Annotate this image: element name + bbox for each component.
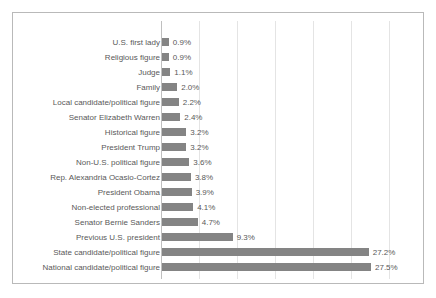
- bar-fill: [162, 143, 186, 151]
- value-label: 0.9%: [173, 35, 191, 50]
- value-label: 3.2%: [190, 140, 208, 155]
- value-label: 4.1%: [197, 200, 215, 215]
- bar: [162, 98, 179, 106]
- value-label: 27.5%: [375, 260, 398, 275]
- bar: [162, 38, 169, 46]
- bar: [162, 218, 198, 226]
- bar: [162, 53, 169, 61]
- bar-fill: [162, 53, 169, 61]
- bar: [162, 158, 189, 166]
- value-label: 2.2%: [183, 95, 201, 110]
- category-label: U.S. first lady: [112, 35, 160, 50]
- value-label: 1.1%: [174, 65, 192, 80]
- bar: [162, 143, 186, 151]
- bar-row: National candidate/political figure27.5%: [13, 260, 425, 275]
- category-label: Family: [136, 80, 160, 95]
- value-label: 9.3%: [237, 230, 255, 245]
- bar: [162, 263, 371, 271]
- bar-row: Rep. Alexandria Ocasio-Cortez3.8%: [13, 170, 425, 185]
- bar-fill: [162, 188, 192, 196]
- bar-fill: [162, 203, 193, 211]
- value-label: 3.9%: [196, 185, 214, 200]
- value-label: 27.2%: [373, 245, 396, 260]
- category-label: Judge: [138, 65, 160, 80]
- bar-fill: [162, 98, 179, 106]
- bar-fill: [162, 248, 369, 256]
- bar-row: Historical figure3.2%: [13, 125, 425, 140]
- bar-row: Judge1.1%: [13, 65, 425, 80]
- bar: [162, 173, 191, 181]
- bar-fill: [162, 128, 186, 136]
- category-label: National candidate/political figure: [43, 260, 160, 275]
- bar-row: Non-U.S. political figure3.6%: [13, 155, 425, 170]
- bar-row: Local candidate/political figure2.2%: [13, 95, 425, 110]
- bar-row: Non-elected professional4.1%: [13, 200, 425, 215]
- bar-fill: [162, 113, 180, 121]
- bar: [162, 233, 233, 241]
- value-label: 2.4%: [184, 110, 202, 125]
- bar-rows: U.S. first lady0.9%Religious figure0.9%J…: [13, 35, 425, 275]
- value-label: 3.2%: [190, 125, 208, 140]
- category-label: Historical figure: [105, 125, 160, 140]
- bar-row: Senator Bernie Sanders4.7%: [13, 215, 425, 230]
- bar-row: President Trump3.2%: [13, 140, 425, 155]
- category-label: President Trump: [101, 140, 160, 155]
- bar-fill: [162, 158, 189, 166]
- bar: [162, 188, 192, 196]
- bar: [162, 248, 369, 256]
- bar: [162, 68, 170, 76]
- value-label: 4.7%: [202, 215, 220, 230]
- bar-row: U.S. first lady0.9%: [13, 35, 425, 50]
- bar-fill: [162, 218, 198, 226]
- bar: [162, 83, 177, 91]
- bar-row: Previous U.S. president9.3%: [13, 230, 425, 245]
- bar-fill: [162, 83, 177, 91]
- bar-row: Religious figure0.9%: [13, 50, 425, 65]
- bar-row: Senator Elizabeth Warren2.4%: [13, 110, 425, 125]
- bar-fill: [162, 68, 170, 76]
- value-label: 3.8%: [195, 170, 213, 185]
- category-label: Religious figure: [105, 50, 160, 65]
- bar-fill: [162, 173, 191, 181]
- plot-area: U.S. first lady0.9%Religious figure0.9%J…: [13, 13, 425, 285]
- category-label: Rep. Alexandria Ocasio-Cortez: [50, 170, 160, 185]
- category-label: Local candidate/political figure: [53, 95, 160, 110]
- category-label: Non-elected professional: [72, 200, 161, 215]
- category-label: Previous U.S. president: [76, 230, 160, 245]
- bar-row: Family2.0%: [13, 80, 425, 95]
- category-label: State candidate/political figure: [53, 245, 160, 260]
- bar-row: President Obama3.9%: [13, 185, 425, 200]
- bar: [162, 203, 193, 211]
- category-label: Senator Elizabeth Warren: [69, 110, 160, 125]
- category-label: Non-U.S. political figure: [76, 155, 160, 170]
- bar-fill: [162, 38, 169, 46]
- bar: [162, 128, 186, 136]
- category-label: Senator Bernie Sanders: [75, 215, 160, 230]
- bar-fill: [162, 263, 371, 271]
- bar: [162, 113, 180, 121]
- bar-row: State candidate/political figure27.2%: [13, 245, 425, 260]
- chart-frame: U.S. first lady0.9%Religious figure0.9%J…: [12, 12, 424, 284]
- value-label: 0.9%: [173, 50, 191, 65]
- category-label: President Obama: [98, 185, 160, 200]
- bar-fill: [162, 233, 233, 241]
- value-label: 2.0%: [181, 80, 199, 95]
- value-label: 3.6%: [193, 155, 211, 170]
